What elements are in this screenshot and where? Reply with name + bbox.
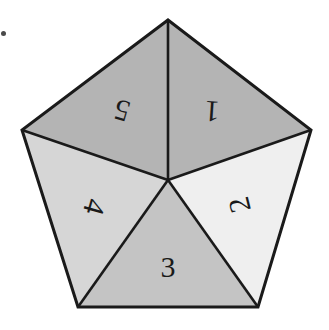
pentagon-diagram: 1 2 3 4 5 <box>0 0 329 330</box>
pentagon-figure: 1 2 3 4 5 <box>0 0 329 330</box>
scan-speck <box>1 31 6 36</box>
sector-1-label: 1 <box>203 95 220 129</box>
sector-3-label: 3 <box>161 250 176 283</box>
